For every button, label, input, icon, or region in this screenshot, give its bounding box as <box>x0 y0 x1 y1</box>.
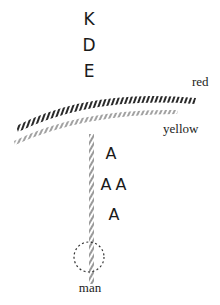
letter-k: K <box>83 9 95 29</box>
yellow-label: yellow <box>163 121 199 136</box>
letter-a-1: A <box>106 144 117 163</box>
vertical-line <box>89 134 94 284</box>
yellow-arc-band <box>14 110 178 145</box>
letters-a-group: A A A A <box>101 144 127 224</box>
letter-d: D <box>82 35 95 55</box>
letter-a-2: A <box>101 175 112 194</box>
man-label: man <box>79 280 102 295</box>
letter-a-4: A <box>109 205 120 224</box>
diagram-canvas: K D E red yellow A A A A man <box>0 0 220 305</box>
red-label: red <box>192 74 209 89</box>
letter-e: E <box>84 61 95 81</box>
letter-a-3: A <box>116 175 127 194</box>
letters-column-top: K D E <box>82 9 95 81</box>
